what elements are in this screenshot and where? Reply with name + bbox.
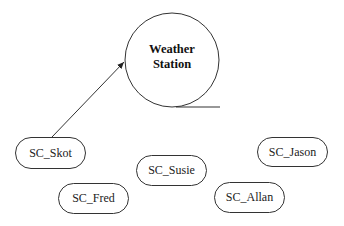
station-label-line1: Weather bbox=[131, 42, 213, 57]
node-label: SC_Jason bbox=[269, 145, 316, 160]
station-label-line2: Station bbox=[131, 57, 213, 72]
node-sc-susie[interactable]: SC_Susie bbox=[136, 155, 207, 186]
node-sc-skot[interactable]: SC_Skot bbox=[15, 137, 86, 169]
arrow-skot-to-station bbox=[52, 62, 124, 137]
node-sc-jason[interactable]: SC_Jason bbox=[257, 137, 328, 167]
weather-station-label: Weather Station bbox=[131, 42, 213, 72]
node-label: SC_Susie bbox=[148, 163, 195, 178]
node-sc-allan[interactable]: SC_Allan bbox=[214, 182, 285, 213]
node-label: SC_Skot bbox=[29, 146, 72, 161]
node-label: SC_Allan bbox=[226, 190, 273, 205]
node-sc-fred[interactable]: SC_Fred bbox=[58, 183, 129, 214]
node-label: SC_Fred bbox=[72, 191, 115, 206]
diagram-lines bbox=[0, 0, 344, 226]
diagram-canvas: Weather Station SC_Skot SC_Fred SC_Susie… bbox=[0, 0, 344, 226]
